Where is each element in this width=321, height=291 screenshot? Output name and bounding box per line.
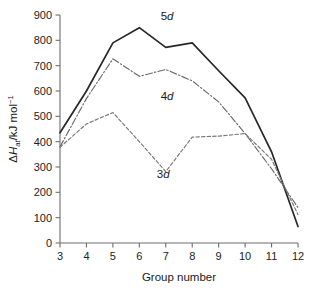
x-tick-label: 7 — [163, 250, 169, 262]
y-tick-label: 900 — [34, 9, 52, 21]
x-axis-tick-labels: 3456789101112 — [57, 250, 304, 262]
series-label-4d: 4d — [161, 90, 174, 102]
x-axis-tick-marks — [60, 243, 298, 248]
x-tick-label: 10 — [239, 250, 251, 262]
x-axis-title: Group number — [142, 271, 216, 283]
y-axis-title: ΔHat/kJ mol−1 — [6, 95, 22, 162]
y-tick-label: 100 — [34, 212, 52, 224]
y-axis-exponent: −1 — [6, 95, 15, 104]
y-tick-label: 700 — [34, 60, 52, 72]
x-tick-label: 3 — [57, 250, 63, 262]
chart-figure: 0100200300400500600700800900 34567891011… — [0, 0, 321, 291]
y-axis-tick-marks — [56, 15, 61, 243]
series-label-5d: 5d — [161, 10, 174, 22]
y-tick-label: 0 — [46, 237, 52, 249]
x-tick-label: 8 — [189, 250, 195, 262]
y-tick-label: 400 — [34, 136, 52, 148]
x-tick-label: 5 — [110, 250, 116, 262]
series-annotations: 5d4d3d — [157, 10, 174, 180]
y-tick-label: 300 — [34, 161, 52, 173]
x-tick-label: 11 — [266, 250, 277, 262]
x-tick-label: 12 — [292, 250, 304, 262]
svg-text:ΔHat/kJ mol−1: ΔHat/kJ mol−1 — [6, 95, 22, 162]
y-axis-units: /kJ mol — [7, 104, 19, 140]
y-tick-label: 800 — [34, 34, 52, 46]
y-tick-label: 500 — [34, 110, 52, 122]
line-chart: 0100200300400500600700800900 34567891011… — [0, 0, 321, 291]
y-tick-label: 200 — [34, 186, 52, 198]
x-tick-label: 6 — [136, 250, 142, 262]
series-line-5d — [60, 28, 298, 227]
y-tick-label: 600 — [34, 85, 52, 97]
x-tick-label: 4 — [83, 250, 89, 262]
x-tick-label: 9 — [216, 250, 222, 262]
y-axis-tick-labels: 0100200300400500600700800900 — [34, 9, 52, 249]
data-series-group — [60, 28, 298, 227]
series-label-3d: 3d — [157, 168, 170, 180]
series-line-3d — [60, 113, 298, 215]
